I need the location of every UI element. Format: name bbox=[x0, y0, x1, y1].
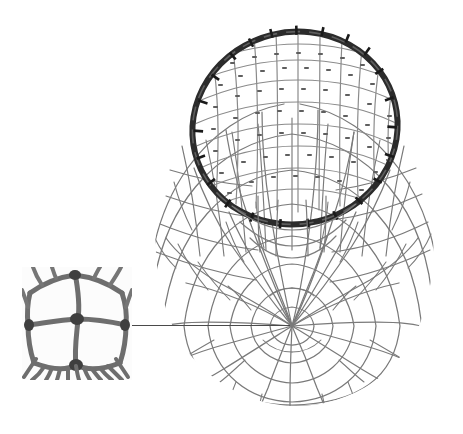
figure-root bbox=[0, 0, 463, 434]
detail-inset-svg bbox=[22, 267, 132, 380]
hoop-rim-outer bbox=[172, 10, 418, 246]
detail-leader-line bbox=[132, 325, 290, 326]
hoop-rim-highlight bbox=[172, 10, 418, 246]
detail-inset bbox=[22, 267, 132, 380]
hoop-face-knots bbox=[212, 53, 391, 193]
